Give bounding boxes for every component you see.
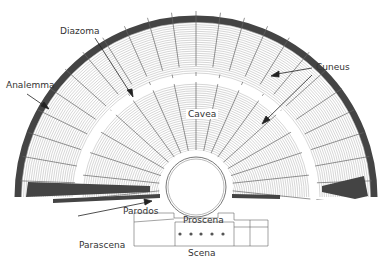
label-analemma: Analemma xyxy=(6,80,54,90)
label-scena: Scena xyxy=(188,248,215,258)
label-parascena: Parascena xyxy=(79,240,125,250)
parodos-wall-left xyxy=(53,194,160,203)
label-cuneus: Cuneus xyxy=(316,62,350,72)
label-diazoma: Diazoma xyxy=(60,26,99,36)
label-parodos: Parodos xyxy=(123,206,158,216)
label-cavea: Cavea xyxy=(186,109,218,119)
scena-columns xyxy=(178,232,224,235)
label-proscena: Proscena xyxy=(183,215,224,225)
orchestra xyxy=(166,157,226,217)
